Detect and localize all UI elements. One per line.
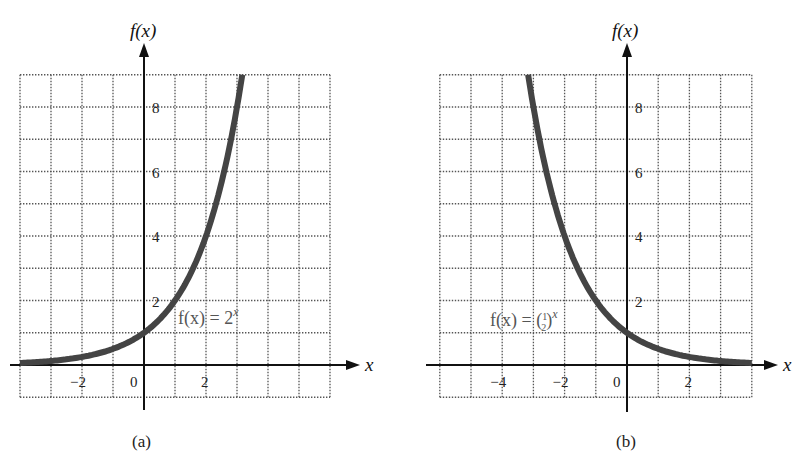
tick-labels-b: −4−2022468 bbox=[490, 100, 692, 390]
x-tick-label: 2 bbox=[201, 374, 209, 390]
grid-a bbox=[20, 75, 330, 398]
function-label-b: f(x) = (12)x bbox=[490, 307, 558, 333]
y-tick-label: 8 bbox=[635, 100, 643, 116]
exponential-graphs-figure: −2022468 f(x) x f(x) = 2x (a) −4−2022468… bbox=[0, 0, 796, 468]
x-axis-arrow-a bbox=[346, 360, 360, 370]
grid-b bbox=[440, 75, 752, 398]
chart-panel-b: −4−2022468 f(x) x f(x) = (12)x (b) bbox=[426, 20, 792, 451]
x-tick-label: 2 bbox=[684, 374, 692, 390]
y-tick-label: 4 bbox=[635, 229, 643, 245]
y-tick-label: 8 bbox=[152, 100, 160, 116]
y-axis-label-b: f(x) bbox=[612, 20, 638, 42]
y-tick-label: 6 bbox=[152, 165, 160, 181]
y-axis-arrow-b bbox=[622, 43, 632, 57]
caption-b: (b) bbox=[616, 432, 636, 451]
chart-panel-a: −2022468 f(x) x f(x) = 2x (a) bbox=[10, 20, 374, 451]
curve-half-pow-x bbox=[528, 75, 752, 363]
x-axis-arrow-b bbox=[764, 360, 778, 370]
x-axis-label-a: x bbox=[364, 354, 374, 375]
x-tick-label: −2 bbox=[553, 374, 569, 390]
y-axis-arrow-a bbox=[139, 43, 149, 57]
y-tick-label: 6 bbox=[635, 165, 643, 181]
caption-a: (a) bbox=[132, 432, 151, 451]
tick-labels-a: −2022468 bbox=[70, 100, 209, 390]
y-tick-label: 2 bbox=[635, 294, 643, 310]
y-tick-label: 2 bbox=[152, 294, 160, 310]
x-axis-label-b: x bbox=[782, 354, 792, 375]
x-tick-label: 0 bbox=[613, 374, 621, 390]
x-tick-label: −2 bbox=[70, 374, 86, 390]
x-tick-label: −4 bbox=[490, 374, 506, 390]
x-tick-label: 0 bbox=[130, 374, 138, 390]
y-tick-label: 4 bbox=[152, 229, 160, 245]
y-axis-label-a: f(x) bbox=[130, 20, 156, 42]
function-label-a: f(x) = 2x bbox=[178, 305, 239, 329]
